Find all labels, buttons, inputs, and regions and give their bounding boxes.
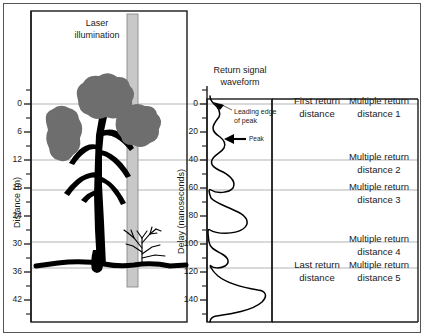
waveform-title-line1: Return signal bbox=[204, 65, 276, 77]
distance-axis bbox=[24, 11, 31, 322]
distance-tick-6: 6 bbox=[0, 127, 22, 137]
waveform-panel-border bbox=[207, 99, 272, 322]
distance-tick-36: 36 bbox=[0, 267, 22, 277]
multiple-return-4-label: Multiple return distance 4 bbox=[339, 233, 419, 259]
returns-panel bbox=[272, 99, 418, 322]
delay-tick-0: 0 bbox=[172, 99, 198, 109]
multiple-return-1-line2: distance 1 bbox=[339, 108, 419, 121]
ground-line bbox=[36, 262, 186, 266]
leading-edge-line1: Leading edge bbox=[234, 108, 276, 117]
multiple-return-5-line2: distance 5 bbox=[339, 272, 419, 285]
distance-tick-0: 0 bbox=[0, 99, 22, 109]
delay-axis bbox=[200, 86, 207, 322]
multiple-return-2-line2: distance 2 bbox=[339, 164, 419, 177]
waveform-panel-title: Return signal waveform bbox=[204, 65, 276, 88]
multiple-return-1-line1: Multiple return bbox=[339, 95, 419, 108]
waveform-title-line2: waveform bbox=[204, 77, 276, 89]
delay-minor-ticks bbox=[202, 90, 207, 314]
multiple-return-3-label: Multiple return distance 3 bbox=[339, 181, 419, 207]
multiple-return-1-label: Multiple return distance 1 bbox=[339, 95, 419, 121]
delay-tick-40: 40 bbox=[172, 155, 198, 165]
return-waveform-trace bbox=[208, 96, 265, 322]
distance-tick-30: 30 bbox=[0, 239, 22, 249]
branch-left-lower bbox=[81, 190, 96, 203]
distance-tick-24: 24 bbox=[0, 211, 22, 221]
tree-base bbox=[91, 250, 104, 273]
scene-panel-border bbox=[31, 11, 187, 322]
laser-illumination-label: Laser illumination bbox=[66, 18, 128, 41]
scene-panel bbox=[24, 11, 187, 322]
leading-edge-label: Leading edge of peak bbox=[234, 108, 276, 126]
laser-illumination-line2: illumination bbox=[66, 30, 128, 42]
branch-right-mid bbox=[100, 150, 131, 178]
distance-tick-12: 12 bbox=[0, 155, 22, 165]
foliage-right bbox=[116, 104, 162, 147]
multiple-return-4-line2: distance 4 bbox=[339, 246, 419, 259]
delay-tick-120: 120 bbox=[168, 267, 198, 277]
laser-illumination-line1: Laser bbox=[66, 18, 128, 30]
delay-tick-80: 80 bbox=[172, 211, 198, 221]
distance-minor-ticks bbox=[26, 90, 31, 314]
delay-tick-140: 140 bbox=[168, 295, 198, 305]
multiple-return-3-line2: distance 3 bbox=[339, 194, 419, 207]
peak-label: Peak bbox=[249, 135, 264, 143]
delay-tick-20: 20 bbox=[172, 127, 198, 137]
distance-tick-18: 18 bbox=[0, 183, 22, 193]
multiple-return-5-line1: Multiple return bbox=[339, 259, 419, 272]
peak-arrowhead bbox=[224, 134, 234, 144]
delay-tick-60: 60 bbox=[172, 183, 198, 193]
distance-tick-42: 42 bbox=[0, 295, 22, 305]
multiple-return-2-label: Multiple return distance 2 bbox=[339, 151, 419, 177]
multiple-return-3-line1: Multiple return bbox=[339, 181, 419, 194]
lidar-waveform-figure: Laser illumination Distance (m) 0 6 12 1… bbox=[0, 0, 424, 336]
multiple-return-5-label: Multiple return distance 5 bbox=[339, 259, 419, 285]
multiple-return-2-line1: Multiple return bbox=[339, 151, 419, 164]
delay-tick-100: 100 bbox=[168, 239, 198, 249]
tree-foliage bbox=[46, 73, 161, 161]
peak-annotation bbox=[224, 134, 246, 144]
multiple-return-4-line1: Multiple return bbox=[339, 233, 419, 246]
leading-edge-line2: of peak bbox=[234, 117, 276, 126]
